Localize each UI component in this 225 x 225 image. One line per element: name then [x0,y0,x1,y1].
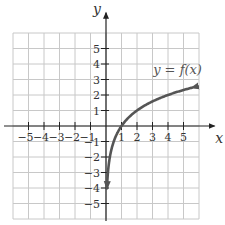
function-label: y = f(x) [152,62,202,77]
y-tick-label: −4 [84,182,100,195]
y-tick-label: 4 [93,58,100,71]
x-tick-label: −4 [33,131,49,144]
y-tick-label: 5 [93,43,100,56]
y-tick-label: 1 [93,105,100,118]
y-tick-label: 2 [93,89,100,102]
x-tick-label: 2 [134,131,141,144]
graph: xy −5−4−3−2−11234554321−1−2−3−4−5 y = f(… [0,0,225,225]
x-tick-label: 4 [165,131,172,144]
y-tick-label: 3 [93,74,100,87]
y-axis-label: y [92,1,102,17]
x-axis-label: x [215,130,223,146]
x-tick-label: −3 [48,131,64,144]
y-tick-label: −2 [84,151,100,164]
x-tick-label: 1 [118,131,125,144]
x-tick-label: 3 [149,131,156,144]
x-tick-label: −2 [64,131,80,144]
y-tick-label: −3 [84,167,100,180]
y-tick-label: −1 [84,136,100,149]
x-tick-label: 5 [180,131,187,144]
x-tick-label: −5 [17,131,33,144]
annotations: y = f(x) [152,62,202,77]
y-tick-label: −5 [84,198,100,211]
